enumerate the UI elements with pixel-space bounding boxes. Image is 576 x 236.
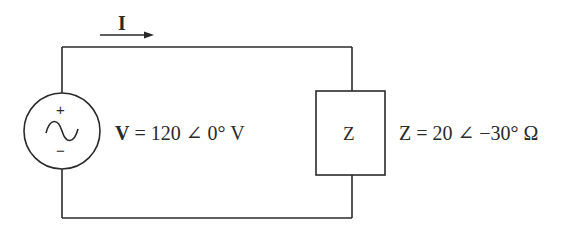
impedance-symbol: Z bbox=[399, 122, 411, 144]
plus-sign: + bbox=[56, 102, 65, 117]
impedance-box-label: Z bbox=[343, 124, 355, 143]
voltage-value: = 120 ∠ 0° V bbox=[129, 122, 244, 144]
voltage-symbol: V bbox=[115, 122, 129, 144]
impedance-value-label: Z = 20 ∠ −30° Ω bbox=[399, 123, 538, 143]
sine-wave-icon bbox=[46, 121, 78, 140]
current-arrow-head-icon bbox=[144, 32, 154, 39]
current-label: I bbox=[118, 13, 126, 33]
minus-sign: − bbox=[56, 143, 65, 158]
impedance-value: = 20 ∠ −30° Ω bbox=[411, 122, 538, 144]
circuit-diagram bbox=[0, 0, 576, 236]
source-voltage-label: V = 120 ∠ 0° V bbox=[115, 123, 245, 143]
